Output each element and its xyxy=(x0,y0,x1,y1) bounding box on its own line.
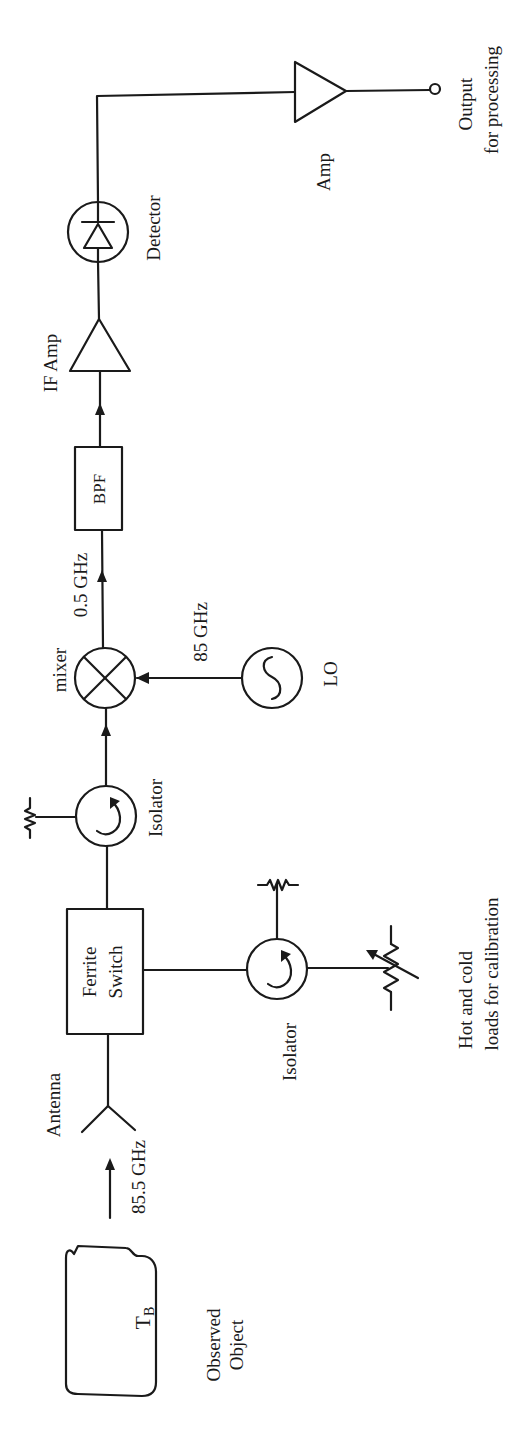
output-terminal-icon xyxy=(430,84,440,94)
detector-label: Detector xyxy=(143,195,164,261)
local-oscillator-icon xyxy=(242,648,302,708)
output-amplifier-icon xyxy=(295,62,346,122)
output-label-2: for processing xyxy=(481,45,502,154)
antenna-icon xyxy=(82,1034,135,1132)
ferrite-switch-label-2: Switch xyxy=(105,945,126,998)
ferrite-switch-label-1: Ferrite xyxy=(79,947,100,998)
antenna-label: Antenna xyxy=(43,1072,64,1137)
if-amp-label: IF Amp xyxy=(40,334,61,393)
isolator-calibration-icon xyxy=(247,939,307,999)
input-frequency-label: 85.5 GHz xyxy=(128,1140,149,1214)
isolator-to-mixer-arrow xyxy=(101,708,111,786)
bpf-to-ifamp-arrow xyxy=(95,371,105,447)
observed-object-label-tb: TB xyxy=(130,1307,157,1330)
mixer-to-bpf-arrow xyxy=(97,530,107,648)
calibration-label-1: Hot and cold xyxy=(455,950,476,1049)
if-amplifier-icon xyxy=(70,319,130,371)
incoming-radiation-arrow xyxy=(105,1158,115,1218)
bpf-label: BPF xyxy=(90,474,109,504)
mixer-icon xyxy=(75,648,135,708)
radiometer-block-diagram: TB Observed Object 85.5 GHz Antenna Ferr… xyxy=(0,0,513,1442)
observed-object-label-2: Object xyxy=(226,1319,247,1370)
lo-to-mixer-arrow xyxy=(136,672,243,684)
lo-frequency-label: 85 GHz xyxy=(190,602,211,662)
detector-to-amp-line xyxy=(97,92,295,202)
lo-label: LO xyxy=(320,661,341,686)
amp-to-output-line xyxy=(346,90,430,91)
detector-diode-icon xyxy=(68,202,128,262)
ifamp-to-detector-line xyxy=(98,262,99,319)
termination-resistor-1-icon xyxy=(25,798,76,838)
output-label-1: Output xyxy=(455,77,476,131)
observed-object-label-1: Observed xyxy=(203,1308,224,1381)
termination-resistor-2-icon xyxy=(258,880,298,939)
amp-label: Amp xyxy=(313,153,334,191)
isolator-lower-label: Isolator xyxy=(279,1022,300,1081)
calibration-label-2: loads for calibration xyxy=(481,897,502,1051)
isolator-signal-icon xyxy=(76,786,136,846)
if-frequency-label: 0.5 GHz xyxy=(70,553,91,617)
isolator-upper-label: Isolator xyxy=(145,778,166,837)
mixer-label: mixer xyxy=(49,647,70,692)
